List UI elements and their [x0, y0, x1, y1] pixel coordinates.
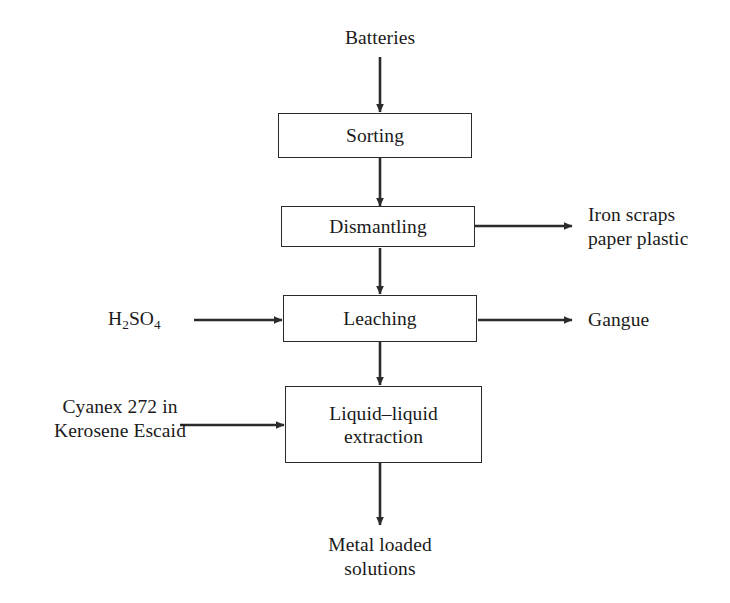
process-box-dismantling[interactable]: Dismantling — [281, 206, 475, 247]
input-label-batteries: Batteries — [345, 26, 415, 50]
acid-formula-subscript-4: 4 — [154, 317, 161, 332]
process-box-liquid-liquid-extraction[interactable]: Liquid–liquid extraction — [285, 386, 482, 463]
process-box-sorting[interactable]: Sorting — [278, 113, 472, 158]
process-flow-diagram: Batteries Sorting Dismantling Iron scrap… — [0, 0, 730, 603]
input-label-sulfuric-acid: H2SO4 — [108, 308, 161, 333]
process-box-leaching[interactable]: Leaching — [283, 295, 477, 342]
process-label-sorting: Sorting — [346, 124, 404, 147]
process-label-liquid-liquid-extraction: Liquid–liquid extraction — [329, 402, 438, 448]
input-label-cyanex-solvent: Cyanex 272 in Kerosene Escaid — [54, 395, 186, 443]
output-label-gangue: Gangue — [588, 308, 649, 332]
output-label-metal-loaded-solutions: Metal loaded solutions — [328, 533, 432, 581]
process-label-leaching: Leaching — [343, 307, 416, 330]
output-label-iron-scraps: Iron scraps paper plastic — [588, 203, 688, 251]
acid-formula-element-h: H — [108, 308, 122, 329]
acid-formula-subscript-2: 2 — [122, 317, 129, 332]
process-label-dismantling: Dismantling — [329, 215, 427, 238]
acid-formula-element-so: SO — [129, 308, 154, 329]
